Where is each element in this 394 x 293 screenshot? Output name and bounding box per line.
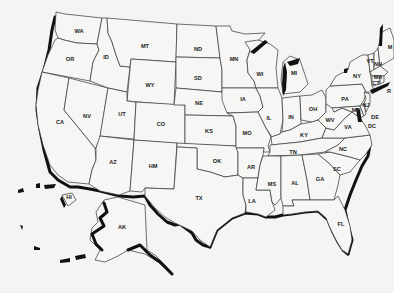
state-label-tx: TX: [195, 195, 202, 201]
state-label-ok: OK: [213, 158, 221, 164]
state-label-dc: DC: [368, 123, 376, 129]
state-label-r: R: [387, 88, 391, 94]
state-label-ny: NY: [353, 73, 361, 79]
state-label-ms: MS: [268, 181, 277, 187]
state-label-nc: NC: [339, 146, 347, 152]
state-label-ut: UT: [118, 111, 126, 117]
state-label-ia: IA: [240, 96, 246, 102]
state-label-ar: AR: [247, 164, 255, 170]
state-label-nv: NV: [83, 113, 91, 119]
state-label-al: AL: [291, 180, 299, 186]
state-label-co: CO: [157, 121, 166, 127]
state-label-de: DE: [371, 114, 379, 120]
state-label-ga: GA: [316, 176, 324, 182]
hawaii-islands: [18, 183, 66, 208]
state-label-il: IL: [267, 115, 273, 121]
state-label-mn: MN: [230, 56, 239, 62]
state-label-mo: MO: [242, 130, 252, 136]
state-label-oh: OH: [309, 106, 317, 112]
state-label-pa: PA: [341, 96, 348, 102]
state-label-la: LA: [248, 198, 255, 204]
state-label-va: VA: [344, 124, 351, 130]
state-label-hm: HM: [149, 163, 158, 169]
aleutian-islands: [20, 225, 86, 263]
state-label-wa: WA: [74, 28, 83, 34]
state-label-wy: WY: [145, 82, 154, 88]
state-label-or: OR: [66, 56, 74, 62]
state-label-az: AZ: [109, 159, 117, 165]
state-label-id: ID: [103, 54, 109, 60]
state-label-wi: WI: [257, 71, 264, 77]
state-nd[interactable]: [176, 24, 220, 58]
state-label-nh: NH: [374, 61, 382, 67]
state-label-ks: KS: [205, 128, 213, 134]
us-map: WAORIDMTWYCANVUTCOAZHMNDSDNEKSOKTXMNIAMO…: [0, 0, 394, 293]
state-label-hi: HI: [66, 194, 72, 200]
state-label-ak: AK: [118, 224, 126, 230]
state-label-ne: NE: [195, 100, 203, 106]
state-label-nj: NJ: [362, 102, 369, 108]
state-label-m: M: [388, 44, 393, 50]
state-label-ct: CT: [372, 80, 380, 86]
state-label-sc: SC: [333, 166, 341, 172]
state-label-ca: CA: [56, 119, 64, 125]
state-label-sd: SD: [194, 75, 202, 81]
state-label-md: MD: [352, 107, 361, 113]
state-label-tn: TN: [289, 149, 296, 155]
state-label-fl: FL: [338, 221, 345, 227]
state-label-mt: MT: [141, 43, 150, 49]
state-label-ky: KY: [300, 132, 308, 138]
state-label-nd: ND: [194, 46, 202, 52]
state-label-mi: MI: [291, 70, 298, 76]
state-label-in: IN: [288, 114, 294, 120]
state-label-wv: WV: [325, 117, 334, 123]
